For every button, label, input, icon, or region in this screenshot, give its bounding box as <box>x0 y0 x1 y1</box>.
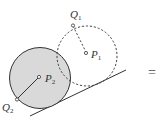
point-q1 <box>71 24 74 27</box>
label-p1: P1 <box>90 48 102 62</box>
rolling-circle-diagram: Q1 P1 P2 Q2 = <box>0 0 166 140</box>
point-p1 <box>84 51 87 54</box>
label-q2: Q2 <box>2 101 14 115</box>
equals-sign: = <box>148 65 156 80</box>
label-q1: Q1 <box>70 8 82 22</box>
dashed-radius-q1-p1 <box>73 26 86 52</box>
point-p2 <box>37 75 40 78</box>
point-q2 <box>15 98 18 101</box>
